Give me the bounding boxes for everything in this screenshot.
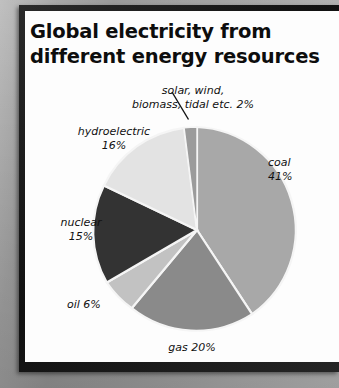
slice-label-coal-line-1: coal (268, 156, 291, 169)
slice-label-hydroelectric: hydroelectric 16% (62, 125, 166, 152)
screenshot-root: Global electricity from different energy… (0, 0, 339, 388)
slice-label-nuclear: nuclear 15% (38, 216, 124, 243)
slice-label-solar-wind-line-1: solar, wind, (162, 84, 224, 97)
slice-label-hydroelectric-line-1: hydroelectric (78, 125, 150, 138)
slice-label-coal: coal 41% (268, 156, 332, 183)
slice-label-nuclear-line-2: 15% (69, 230, 93, 243)
slice-label-coal-line-2: 41% (268, 170, 292, 183)
slice-label-nuclear-line-1: nuclear (60, 216, 101, 229)
slice-label-solar-wind: solar, wind, biomass, tidal etc. 2% (118, 84, 268, 111)
slice-label-hydroelectric-line-2: 16% (102, 139, 126, 152)
slice-label-solar-wind-line-2: biomass, tidal etc. 2% (132, 98, 254, 111)
slice-label-gas: gas 20% (137, 341, 247, 355)
chart-page: Global electricity from different energy… (25, 11, 339, 362)
slice-label-oil: oil 6% (67, 298, 137, 312)
